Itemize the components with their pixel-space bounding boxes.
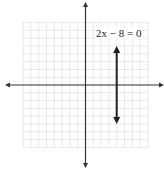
y-axis-top-arrow-icon <box>83 2 88 7</box>
arrow-down-icon <box>113 117 120 124</box>
arrow-up-icon <box>113 46 120 53</box>
y-axis-bottom-arrow-icon <box>83 163 88 168</box>
x-axis-left-arrow-icon <box>5 83 10 88</box>
equation-label: 2x − 8 = 0 <box>95 27 142 39</box>
x-axis-right-arrow-icon <box>159 83 164 88</box>
